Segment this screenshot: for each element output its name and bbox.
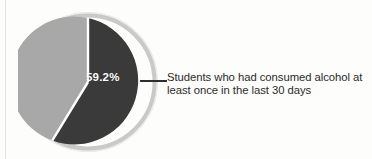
pie-chart-figure: 59.2% Students who had consumed alcohol … — [0, 0, 372, 159]
pie-value-label-alcohol: 59.2% — [86, 71, 120, 83]
callout-label: Students who had consumed alcohol at lea… — [167, 71, 367, 96]
page-margin-rule — [5, 0, 6, 159]
callout-leader-line — [140, 80, 167, 82]
callout-label-line-1: Students who had consumed alcohol at — [167, 71, 367, 84]
callout-label-line-2: least once in the last 30 days — [167, 84, 367, 97]
